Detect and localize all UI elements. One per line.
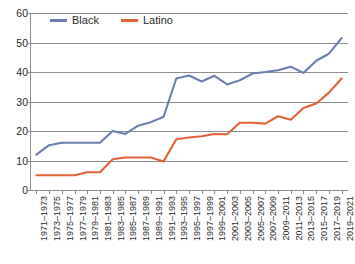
- plot-area: [30, 13, 348, 190]
- legend-label: Latino: [143, 15, 173, 26]
- x-tick-label: 2017–2019: [333, 196, 342, 241]
- x-tick-label: 2009–2011: [282, 196, 291, 240]
- x-tick-label: 1991–1993: [168, 196, 177, 241]
- y-tick-label-50: 50: [2, 37, 28, 48]
- x-tick-label: 2019–2021: [346, 196, 355, 241]
- gridline-20: [30, 131, 348, 132]
- legend-swatch-icon: [121, 19, 138, 22]
- x-tick-label: 1981–1983: [104, 196, 113, 241]
- y-tick-label-10: 10: [2, 155, 28, 166]
- x-tick-mark-2: [62, 190, 63, 194]
- x-tick-label: 2015–2017: [320, 196, 329, 241]
- x-tick-label: 1979–1981: [91, 196, 100, 241]
- gridline-30: [30, 102, 348, 103]
- x-tick-label: 1989–1991: [155, 196, 164, 241]
- gridline-40: [30, 72, 348, 73]
- x-tick-mark-11: [176, 190, 177, 194]
- x-tick-mark-5: [100, 190, 101, 194]
- legend-swatch-icon: [50, 19, 67, 22]
- x-tick-label: 1985–1987: [129, 196, 138, 241]
- y-tick-label-40: 40: [2, 67, 28, 78]
- gridline-10: [30, 161, 348, 162]
- chart-legend: BlackLatino: [50, 15, 173, 26]
- gridline-50: [30, 43, 348, 44]
- x-axis: 1971–19731973–19751975–19771977–19791979…: [0, 196, 355, 264]
- x-tick-mark-9: [151, 190, 152, 194]
- x-tick-label: 1999–2001: [218, 196, 227, 241]
- x-tick-mark-23: [329, 190, 330, 194]
- x-tick-mark-19: [278, 190, 279, 194]
- x-tick-mark-18: [265, 190, 266, 194]
- x-tick-label: 1975–1977: [66, 196, 75, 241]
- x-tick-mark-14: [214, 190, 215, 194]
- x-tick-mark-3: [75, 190, 76, 194]
- x-tick-mark-10: [164, 190, 165, 194]
- x-tick-label: 2007–2009: [269, 196, 278, 241]
- legend-item-latino[interactable]: Latino: [121, 15, 173, 26]
- x-tick-mark-1: [49, 190, 50, 194]
- x-tick-mark-21: [303, 190, 304, 194]
- x-tick-mark-6: [113, 190, 114, 194]
- x-tick-mark-15: [227, 190, 228, 194]
- x-tick-mark-24: [342, 190, 343, 194]
- x-tick-mark-4: [87, 190, 88, 194]
- x-tick-label: 2001–2003: [231, 196, 240, 241]
- x-tick-label: 1995–1997: [193, 196, 202, 241]
- y-tick-label-20: 20: [2, 126, 28, 137]
- x-tick-mark-16: [240, 190, 241, 194]
- x-tick-mark-22: [316, 190, 317, 194]
- y-tick-label-0: 0: [2, 185, 28, 196]
- x-tick-label: 1997–1999: [206, 196, 215, 241]
- x-tick-label: 2013–2015: [307, 196, 316, 241]
- x-tick-mark-12: [189, 190, 190, 194]
- x-tick-mark-13: [202, 190, 203, 194]
- legend-label: Black: [72, 15, 99, 26]
- x-tick-mark-8: [138, 190, 139, 194]
- x-tick-label: 1977–1979: [79, 196, 88, 241]
- x-tick-mark-7: [125, 190, 126, 194]
- x-tick-label: 1973–1975: [53, 196, 62, 241]
- y-tick-label-60: 60: [2, 8, 28, 19]
- y-tick-label-30: 30: [2, 96, 28, 107]
- x-tick-mark-17: [253, 190, 254, 194]
- line-chart: 6050403020100 BlackLatino 1971–19731973–…: [0, 0, 355, 264]
- x-tick-label: 2011–2013: [295, 196, 304, 240]
- x-tick-mark-20: [291, 190, 292, 194]
- x-tick-label: 1983–1985: [117, 196, 126, 241]
- x-tick-label: 1987–1989: [142, 196, 151, 241]
- x-tick-label: 1993–1995: [180, 196, 189, 241]
- x-tick-label: 2003–2005: [244, 196, 253, 241]
- x-tick-label: 1971–1973: [40, 196, 49, 241]
- x-tick-mark-0: [36, 190, 37, 194]
- x-tick-label: 2005–2007: [257, 196, 266, 241]
- legend-item-black[interactable]: Black: [50, 15, 99, 26]
